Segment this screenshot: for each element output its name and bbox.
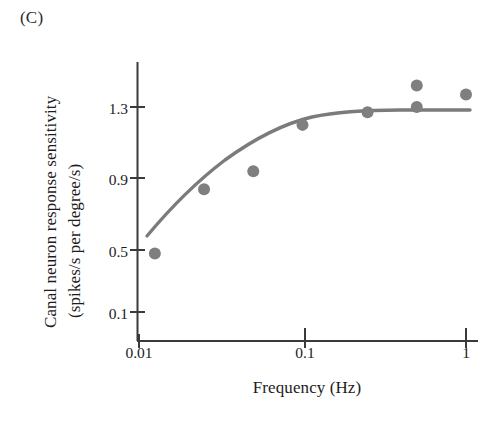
data-point	[149, 248, 161, 260]
data-points	[149, 80, 472, 260]
plot-area	[0, 0, 495, 432]
data-point	[411, 80, 423, 92]
fitted-curve	[147, 110, 470, 236]
figure-panel-c: (C) Canal neuron response sensitivity (s…	[0, 0, 495, 432]
data-point	[411, 101, 423, 113]
data-point	[297, 119, 309, 131]
x-axis-ticks	[139, 328, 466, 348]
data-point	[198, 183, 210, 195]
data-point	[247, 165, 259, 177]
data-point	[362, 106, 374, 118]
axis-lines	[137, 62, 478, 341]
data-point	[460, 88, 472, 100]
